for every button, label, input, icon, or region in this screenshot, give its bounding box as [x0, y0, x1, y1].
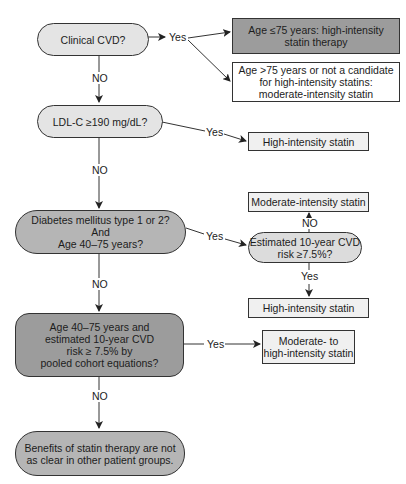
edge-label-ldl-yes: Yes [205, 127, 224, 138]
edge-label-risk-no: NO [301, 218, 319, 229]
outcome-moderate-to-high-label: Moderate- to high-intensity statin [264, 335, 354, 359]
outcome-high-intensity-2-label: High-intensity statin [263, 302, 355, 314]
outcome-age-gt75-label: Age >75 years or not a candidate for hig… [239, 64, 394, 100]
outcome-benefits-label: Benefits of statin therapy are not as cl… [24, 442, 175, 466]
decision-estimated-risk: Estimated 10-year CVD risk ≥7.5%? [248, 232, 362, 263]
outcome-high-intensity-2: High-intensity statin [248, 298, 369, 318]
decision-age-40-75: Age 40–75 years and estimated 10-year CV… [15, 313, 184, 377]
outcome-moderate-intensity: Moderate-intensity statin [248, 192, 369, 212]
decision-clinical-cvd-label: Clinical CVD? [61, 34, 126, 46]
edge-label-diabetes-yes: Yes [205, 231, 224, 242]
edge-label-age-yes: Yes [206, 339, 225, 350]
outcome-age-gt75: Age >75 years or not a candidate for hig… [232, 62, 400, 102]
edge-label-risk-yes: Yes [300, 271, 319, 282]
edge-label-ldl-no: NO [91, 165, 109, 176]
outcome-high-intensity-1-label: High-intensity statin [263, 136, 355, 148]
edge-label-cvd-no: NO [91, 73, 109, 84]
edge-label-diabetes-no: NO [91, 279, 109, 290]
outcome-moderate-to-high: Moderate- to high-intensity statin [262, 330, 355, 364]
edge-label-age-no: NO [91, 391, 109, 402]
outcome-benefits: Benefits of statin therapy are not as cl… [15, 431, 185, 476]
decision-ldl-label: LDL-C ≥190 mg/dL? [53, 116, 147, 128]
edge-label-cvd-yes: Yes [168, 32, 187, 43]
decision-estimated-risk-label: Estimated 10-year CVD risk ≥7.5%? [250, 236, 360, 260]
decision-diabetes: Diabetes mellitus type 1 or 2? And Age 4… [15, 210, 186, 254]
outcome-moderate-intensity-label: Moderate-intensity statin [251, 196, 365, 208]
outcome-age-le75-label: Age ≤75 years: high-intensity statin the… [248, 24, 383, 48]
outcome-age-le75: Age ≤75 years: high-intensity statin the… [232, 18, 400, 54]
decision-age-40-75-label: Age 40–75 years and estimated 10-year CV… [41, 321, 159, 369]
outcome-high-intensity-1: High-intensity statin [248, 132, 369, 151]
decision-diabetes-label: Diabetes mellitus type 1 or 2? And Age 4… [31, 214, 169, 250]
decision-ldl: LDL-C ≥190 mg/dL? [37, 105, 163, 138]
decision-clinical-cvd: Clinical CVD? [37, 23, 149, 56]
